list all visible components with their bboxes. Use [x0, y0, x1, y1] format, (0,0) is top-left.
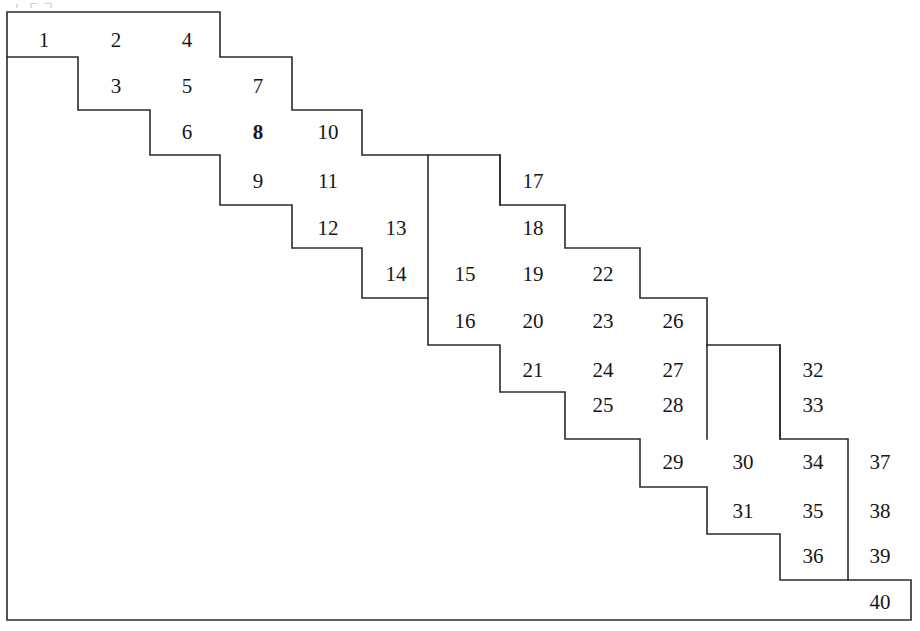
cell-number: 15: [455, 264, 476, 285]
cell-number: 19: [523, 264, 544, 285]
cell-number: 1: [39, 30, 50, 51]
cell-number: 30: [733, 452, 754, 473]
cell-number: 6: [182, 122, 193, 143]
cell-number: 20: [523, 311, 544, 332]
cell-number: 35: [803, 501, 824, 522]
cell-number: 37: [870, 452, 891, 473]
cell-number: 40: [870, 592, 891, 613]
cell-number: 26: [663, 311, 684, 332]
cell-number: 8: [253, 122, 264, 143]
cell-number: 34: [803, 452, 824, 473]
cell-number: 11: [318, 171, 338, 192]
inner-staircase-path: [7, 57, 848, 580]
cell-number: 29: [663, 452, 684, 473]
cell-number: 21: [523, 360, 544, 381]
cell-number: 27: [663, 360, 684, 381]
cell-number: 28: [663, 395, 684, 416]
cell-number: 9: [253, 171, 264, 192]
cell-number: 23: [593, 311, 614, 332]
cell-number: 12: [318, 218, 339, 239]
cell-number: 32: [803, 360, 824, 381]
cell-number: 16: [455, 311, 476, 332]
cell-number: 5: [182, 76, 193, 97]
cell-number: 7: [253, 76, 264, 97]
cell-number: 25: [593, 395, 614, 416]
cell-number: 4: [182, 30, 193, 51]
cell-number: 14: [386, 264, 407, 285]
cell-number: 13: [386, 218, 407, 239]
cell-number: 31: [733, 501, 754, 522]
cell-number: 18: [523, 218, 544, 239]
cell-number: 33: [803, 395, 824, 416]
cell-number: 3: [111, 76, 122, 97]
cell-number: 24: [593, 360, 614, 381]
cell-number: 2: [111, 30, 122, 51]
cell-number: 22: [593, 264, 614, 285]
cell-number: 38: [870, 501, 891, 522]
cell-number: 39: [870, 546, 891, 567]
cell-number: 17: [523, 171, 544, 192]
cell-number: 10: [318, 122, 339, 143]
cell-number: 36: [803, 546, 824, 567]
diagram-canvas: ㄴㄷㄱ 124357681091117121318141519221620232…: [0, 0, 920, 631]
